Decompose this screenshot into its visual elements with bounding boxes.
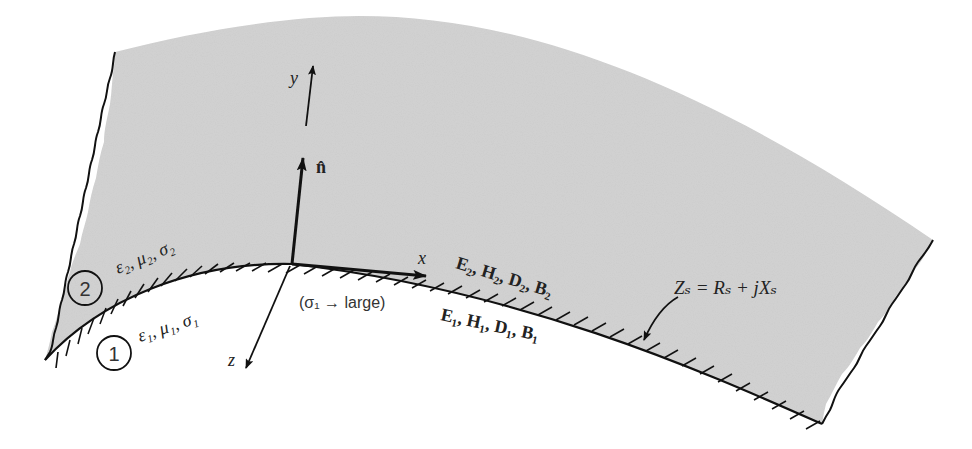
surface-impedance-diagram: y n̂ x z 2 ε₂, μ₂, σ₂ 1 ε₁, μ₁, σ₁ (σ₁ →… [0,0,972,449]
surface-impedance-label: Zₛ = Rₛ + jXₛ [674,277,777,298]
z-axis-arrow [246,266,290,368]
y-axis-label: y [288,68,298,88]
x-axis-label: x [417,248,426,268]
conductivity-note: (σ₁ → large) [299,294,385,311]
z-axis-label: z [227,350,235,370]
region-1-parameters: ε₁, μ₁, σ₁ [135,308,200,346]
medium-2-region [45,16,933,424]
region-2-number: 2 [79,278,90,300]
region-1-number: 1 [108,343,119,365]
normal-vector-label: n̂ [316,157,326,177]
